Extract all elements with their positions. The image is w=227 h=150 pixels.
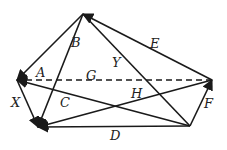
vector-x-label: X bbox=[10, 95, 21, 110]
vector-d-label: D bbox=[109, 128, 121, 143]
vector-lines bbox=[17, 14, 212, 127]
vector-b-label: B bbox=[70, 35, 81, 50]
vector-c-line bbox=[17, 80, 190, 126]
vector-y-label: Y bbox=[112, 55, 122, 70]
vector-d-line bbox=[38, 126, 190, 127]
vector-e-label: E bbox=[149, 36, 160, 51]
vector-f-label: F bbox=[203, 96, 214, 111]
vector-y-line bbox=[83, 14, 190, 126]
vector-g-label: G bbox=[86, 68, 96, 83]
vector-e-line bbox=[83, 14, 212, 80]
vector-c-label: C bbox=[60, 95, 70, 110]
vector-diagram: ABEYGXCHDF bbox=[0, 0, 227, 150]
vector-h-label: H bbox=[130, 86, 143, 101]
vector-a-label: A bbox=[35, 65, 45, 80]
